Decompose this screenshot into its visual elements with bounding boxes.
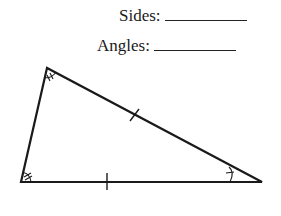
bottom-right-angle-mark <box>226 167 234 182</box>
triangle-diagram <box>0 0 281 216</box>
bottom-left-angle-mark <box>24 173 33 183</box>
triangle-outline <box>21 68 262 182</box>
